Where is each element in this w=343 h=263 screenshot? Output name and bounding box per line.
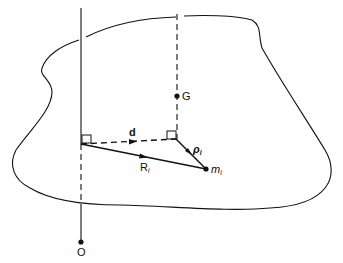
rigid-body-diagram: G O d Ri ρi mi xyxy=(0,0,343,263)
label-d: d xyxy=(129,126,136,138)
point-O xyxy=(78,239,83,244)
label-R-i: Ri xyxy=(140,161,150,174)
label-O: O xyxy=(77,246,86,258)
label-G: G xyxy=(182,90,191,102)
body-outline xyxy=(12,15,331,209)
arrowhead-d xyxy=(129,139,137,145)
right-angle-marker-right xyxy=(167,131,176,139)
point-G xyxy=(174,93,179,98)
point-m-i xyxy=(203,166,208,171)
label-rho-i: ρi xyxy=(192,143,203,156)
label-m-i: mi xyxy=(211,163,222,176)
vector-d xyxy=(81,139,176,144)
right-angle-marker-left xyxy=(82,135,91,143)
